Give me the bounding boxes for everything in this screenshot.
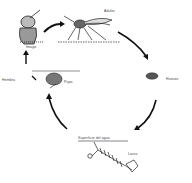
- label-pupa: Pupa: [64, 80, 73, 84]
- label-eggs: Huevos: [166, 77, 178, 81]
- label-larva: Larva: [128, 152, 137, 156]
- arrow-adult-to-eggs: [118, 32, 146, 56]
- pupa-illustration: [46, 73, 62, 88]
- label-water-surface: Superficie del agua: [78, 136, 110, 140]
- arrow-larva-to-pupa: [49, 98, 67, 129]
- label-side: Hembra: [2, 78, 15, 82]
- arrow-imago-to-adult: [44, 24, 60, 32]
- eggs-illustration: [146, 73, 158, 79]
- larva-illustration: [88, 142, 138, 172]
- adult-mosquito-illustration: [58, 16, 120, 42]
- imago-illustration: [20, 10, 45, 44]
- life-cycle-diagram: [0, 0, 192, 183]
- label-imago: Imago: [26, 45, 36, 49]
- label-adult: Adulto: [104, 9, 115, 13]
- arrow-eggs-to-larva: [138, 100, 156, 128]
- pupa-small-arrow: [32, 76, 36, 80]
